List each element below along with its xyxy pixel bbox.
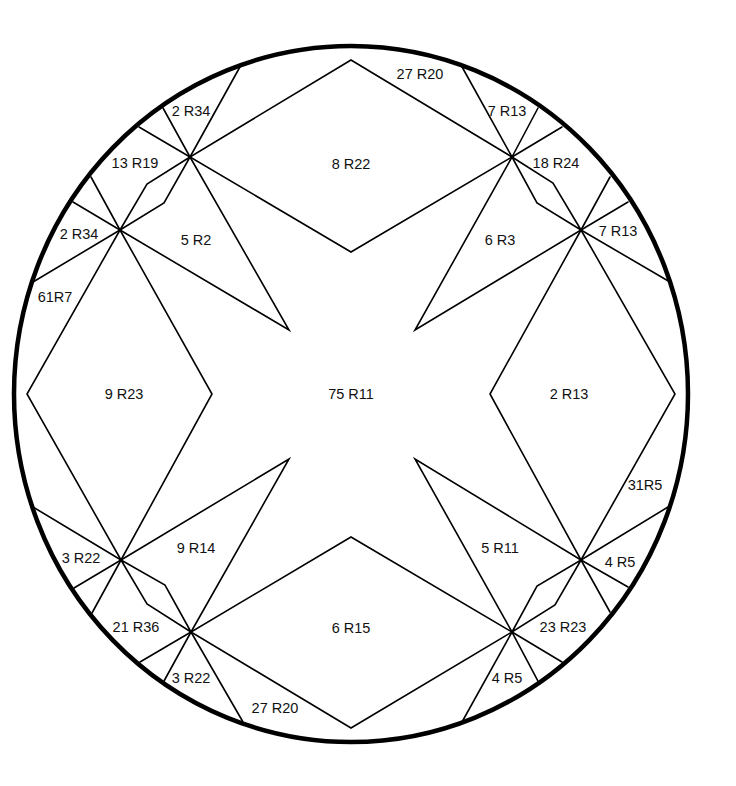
label-tr-right-wedge: 7 R13 [599, 223, 638, 239]
label-br-right-wedge: 4 R5 [605, 554, 636, 570]
label-tr-star-arm: 6 R3 [485, 232, 516, 248]
label-bl-star-arm: 9 R14 [177, 540, 216, 556]
label-tl-top-wedge: 2 R34 [172, 103, 211, 119]
label-bl-bottom-wedge: 3 R22 [172, 670, 211, 686]
label-tl-star-arm: 5 R2 [181, 232, 212, 248]
label-left-upper-band: 61R7 [38, 289, 73, 305]
label-top-right-band: 27 R20 [397, 66, 444, 82]
label-tr-mid-wedge: 18 R24 [533, 155, 580, 171]
label-tr-top-wedge: 7 R13 [488, 103, 527, 119]
region-labels: 75 R11 8 R22 6 R15 9 R23 2 R13 5 R2 6 R3… [38, 66, 663, 716]
label-tl-mid-wedge: 13 R19 [112, 155, 159, 171]
quilt-pattern-diagram: 75 R11 8 R22 6 R15 9 R23 2 R13 5 R2 6 R3… [0, 0, 736, 786]
label-bottom-left-band: 27 R20 [252, 700, 299, 716]
label-bl-left-wedge: 3 R22 [62, 550, 101, 566]
label-right-lower-band: 31R5 [628, 477, 663, 493]
label-left-diamond: 9 R23 [105, 386, 144, 402]
label-br-bottom-wedge: 4 R5 [492, 670, 523, 686]
label-bl-mid-wedge: 21 R36 [113, 619, 160, 635]
label-bottom-diamond: 6 R15 [332, 620, 371, 636]
label-center: 75 R11 [328, 386, 374, 402]
label-br-mid-wedge: 23 R23 [540, 619, 587, 635]
label-br-star-arm: 5 R11 [481, 540, 519, 556]
label-top-diamond: 8 R22 [332, 156, 371, 172]
label-tl-left-wedge: 2 R34 [60, 226, 99, 242]
label-right-diamond: 2 R13 [550, 386, 589, 402]
